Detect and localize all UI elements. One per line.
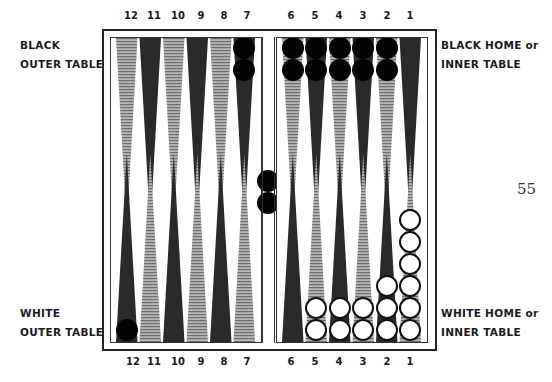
point-number: 4 xyxy=(327,356,351,367)
point-number: 3 xyxy=(351,10,375,21)
point-bottom-11[interactable] xyxy=(140,154,162,342)
point-number: 7 xyxy=(235,356,259,367)
label-white-home-table: WHITE HOME or INNER TABLE xyxy=(441,304,539,342)
point-number: 11 xyxy=(142,10,166,21)
point-number: 8 xyxy=(212,10,236,21)
page-number: 55 xyxy=(517,180,536,198)
white-checker[interactable] xyxy=(329,319,351,341)
point-bottom-9[interactable] xyxy=(187,154,209,342)
black-checker[interactable] xyxy=(282,59,304,81)
point-bottom-8[interactable] xyxy=(210,154,232,342)
point-bottom-6[interactable] xyxy=(282,154,304,342)
label-line: OUTER TABLE xyxy=(20,323,103,342)
point-number: 8 xyxy=(212,356,236,367)
point-bottom-7[interactable] xyxy=(234,154,256,342)
point-number: 10 xyxy=(166,356,190,367)
black-checker[interactable] xyxy=(376,37,398,59)
point-number: 2 xyxy=(375,10,399,21)
label-line: BLACK HOME or xyxy=(441,36,539,55)
point-number: 9 xyxy=(189,10,213,21)
inner-table xyxy=(276,37,428,343)
label-white-outer-table: WHITE OUTER TABLE xyxy=(20,304,103,342)
points-right xyxy=(277,38,427,342)
white-checker[interactable] xyxy=(376,297,398,319)
black-checker[interactable] xyxy=(329,37,351,59)
label-black-outer-table: BLACK OUTER TABLE xyxy=(20,36,103,74)
black-checker[interactable] xyxy=(376,59,398,81)
point-number: 4 xyxy=(327,10,351,21)
point-number: 12 xyxy=(119,10,143,21)
label-line: WHITE HOME or xyxy=(441,304,539,323)
point-number: 5 xyxy=(303,10,327,21)
white-checker[interactable] xyxy=(376,319,398,341)
label-line: INNER TABLE xyxy=(441,323,539,342)
point-number: 7 xyxy=(235,10,259,21)
point-number: 6 xyxy=(279,356,303,367)
label-line: BLACK xyxy=(20,36,103,55)
bar-divider xyxy=(262,37,263,343)
point-bottom-10[interactable] xyxy=(163,154,185,342)
point-bottom-12[interactable] xyxy=(116,154,138,342)
point-number: 11 xyxy=(142,356,166,367)
point-number: 2 xyxy=(375,356,399,367)
point-number: 1 xyxy=(398,356,422,367)
label-line: WHITE xyxy=(20,304,103,323)
label-black-home-table: BLACK HOME or INNER TABLE xyxy=(441,36,539,74)
bar xyxy=(262,37,274,342)
black-checker[interactable] xyxy=(116,319,138,341)
white-checker[interactable] xyxy=(376,275,398,297)
white-checker[interactable] xyxy=(329,297,351,319)
points-left xyxy=(111,38,261,342)
point-number: 10 xyxy=(166,10,190,21)
label-line: INNER TABLE xyxy=(441,55,539,74)
point-number: 3 xyxy=(351,356,375,367)
point-number: 1 xyxy=(398,10,422,21)
black-checker[interactable] xyxy=(329,59,351,81)
bar-divider xyxy=(274,37,275,343)
point-number: 9 xyxy=(189,356,213,367)
outer-table xyxy=(110,37,262,343)
point-number: 5 xyxy=(303,356,327,367)
label-line: OUTER TABLE xyxy=(20,55,103,74)
backgammon-board xyxy=(102,29,437,351)
point-number: 6 xyxy=(279,10,303,21)
black-checker[interactable] xyxy=(282,37,304,59)
